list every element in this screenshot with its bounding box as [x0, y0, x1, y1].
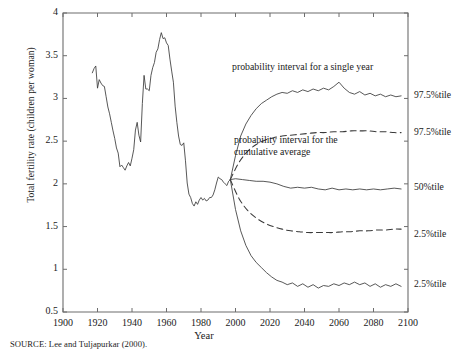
chart-canvas: [0, 0, 457, 354]
y-tick-label: 2: [30, 177, 58, 188]
y-tick-label: 3.5: [30, 49, 58, 60]
annotation-cumulative-average: probability interval for thecumulative a…: [234, 134, 338, 157]
y-axis-label: Total fertility rate (children per woman…: [26, 10, 36, 240]
percentile-label-lower-single-year: 2.5%tile: [414, 278, 446, 289]
plot-frame: [63, 13, 408, 312]
series-2.5-percentile-cumulative-average: [230, 180, 401, 233]
series-2.5-percentile-single-year: [230, 180, 401, 288]
percentile-label-median: 50%tile: [414, 181, 444, 192]
y-tick-label: 4: [30, 6, 58, 17]
y-tick-label: 3: [30, 91, 58, 102]
annotation-single-year: probability interval for a single year: [232, 61, 373, 73]
percentile-label-upper-cumulative: 97.5%tile: [414, 126, 451, 137]
y-tick-label: 2.5: [30, 134, 58, 145]
source-note: SOURCE: Lee and Tuljapurkar (2000).: [10, 339, 147, 349]
y-tick-label: 0.5: [30, 305, 58, 316]
annotation-line: probability interval for the: [234, 134, 338, 146]
fertility-projection-figure: Total fertility rate (children per woman…: [0, 0, 457, 354]
annotation-line: cumulative average: [234, 146, 338, 158]
percentile-label-lower-cumulative: 2.5%tile: [414, 228, 446, 239]
y-tick-label: 1.5: [30, 220, 58, 231]
y-tick-label: 1: [30, 262, 58, 273]
series-97.5-percentile-single-year: [230, 82, 401, 179]
x-tick-label: 2100: [385, 317, 431, 328]
series-historical: [92, 33, 230, 206]
percentile-label-upper-single-year: 97.5%tile: [414, 89, 451, 100]
series-50-percentile: [230, 179, 401, 190]
